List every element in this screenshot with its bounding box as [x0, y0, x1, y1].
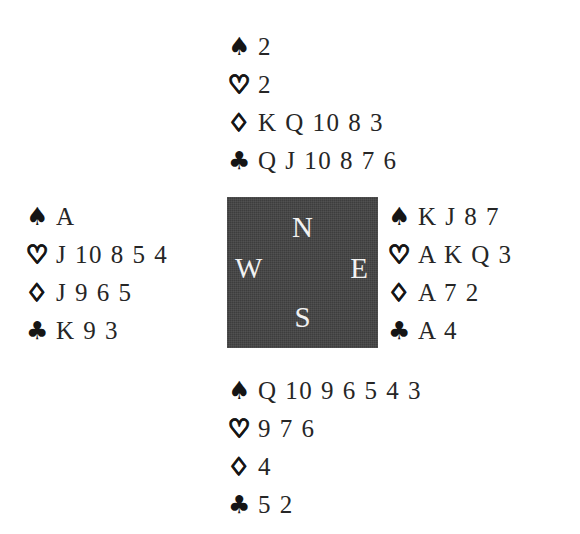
- west-heart-cards: J 10 8 5 4: [52, 236, 168, 274]
- compass-box: N W E S: [227, 197, 378, 348]
- east-heart-row: ♡ A K Q 3: [388, 236, 513, 274]
- club-icon: ♣: [26, 312, 52, 350]
- diamond-icon: ♢: [228, 448, 254, 486]
- south-spade-row: ♠ Q 10 9 6 5 4 3: [228, 372, 422, 410]
- south-club-cards: 5 2: [254, 486, 294, 524]
- compass-label-west: W: [235, 254, 262, 283]
- club-icon: ♣: [388, 312, 414, 350]
- south-diamond-cards: 4: [254, 448, 272, 486]
- diamond-icon: ♢: [388, 274, 414, 312]
- heart-icon: ♡: [388, 236, 414, 274]
- club-icon: ♣: [228, 486, 254, 524]
- west-diamond-cards: J 9 6 5: [52, 274, 132, 312]
- spade-icon: ♠: [228, 28, 254, 66]
- north-club-cards: Q J 10 8 7 6: [254, 142, 398, 180]
- east-diamond-cards: A 7 2: [414, 274, 480, 312]
- south-diamond-row: ♢ 4: [228, 448, 422, 486]
- west-diamond-row: ♢ J 9 6 5: [26, 274, 168, 312]
- spade-icon: ♠: [388, 198, 414, 236]
- north-spade-cards: 2: [254, 28, 272, 66]
- diamond-icon: ♢: [228, 104, 254, 142]
- hand-south: ♠ Q 10 9 6 5 4 3 ♡ 9 7 6 ♢ 4 ♣ 5 2: [228, 372, 422, 524]
- compass-label-north: N: [227, 213, 378, 242]
- north-club-row: ♣ Q J 10 8 7 6: [228, 142, 398, 180]
- west-club-row: ♣ K 9 3: [26, 312, 168, 350]
- west-spade-cards: A: [52, 198, 76, 236]
- hand-east: ♠ K J 8 7 ♡ A K Q 3 ♢ A 7 2 ♣ A 4: [388, 198, 513, 350]
- hand-west: ♠ A ♡ J 10 8 5 4 ♢ J 9 6 5 ♣ K 9 3: [26, 198, 168, 350]
- north-diamond-cards: K Q 10 8 3: [254, 104, 384, 142]
- west-club-cards: K 9 3: [52, 312, 119, 350]
- west-spade-row: ♠ A: [26, 198, 168, 236]
- bridge-deal-diagram: ♠ 2 ♡ 2 ♢ K Q 10 8 3 ♣ Q J 10 8 7 6 ♠ A …: [0, 0, 580, 534]
- diamond-icon: ♢: [26, 274, 52, 312]
- heart-icon: ♡: [228, 66, 254, 104]
- heart-icon: ♡: [26, 236, 52, 274]
- north-diamond-row: ♢ K Q 10 8 3: [228, 104, 398, 142]
- east-diamond-row: ♢ A 7 2: [388, 274, 513, 312]
- heart-icon: ♡: [228, 410, 254, 448]
- north-spade-row: ♠ 2: [228, 28, 398, 66]
- west-heart-row: ♡ J 10 8 5 4: [26, 236, 168, 274]
- east-heart-cards: A K Q 3: [414, 236, 513, 274]
- south-spade-cards: Q 10 9 6 5 4 3: [254, 372, 422, 410]
- east-club-cards: A 4: [414, 312, 458, 350]
- south-heart-cards: 9 7 6: [254, 410, 316, 448]
- east-club-row: ♣ A 4: [388, 312, 513, 350]
- compass-label-south: S: [227, 303, 378, 332]
- east-spade-row: ♠ K J 8 7: [388, 198, 513, 236]
- compass-label-east: E: [350, 254, 368, 283]
- spade-icon: ♠: [228, 372, 254, 410]
- east-spade-cards: K J 8 7: [414, 198, 500, 236]
- south-club-row: ♣ 5 2: [228, 486, 422, 524]
- south-heart-row: ♡ 9 7 6: [228, 410, 422, 448]
- hand-north: ♠ 2 ♡ 2 ♢ K Q 10 8 3 ♣ Q J 10 8 7 6: [228, 28, 398, 180]
- north-heart-cards: 2: [254, 66, 272, 104]
- club-icon: ♣: [228, 142, 254, 180]
- north-heart-row: ♡ 2: [228, 66, 398, 104]
- spade-icon: ♠: [26, 198, 52, 236]
